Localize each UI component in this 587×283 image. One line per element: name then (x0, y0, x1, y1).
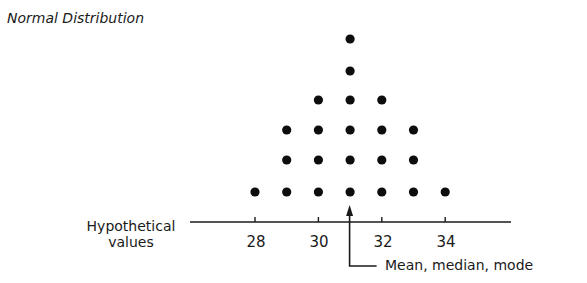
tick-label-28: 28 (246, 233, 265, 251)
tick-label-34: 34 (436, 233, 455, 251)
data-point (346, 125, 355, 134)
data-point (346, 95, 355, 104)
axis-label-line1: Hypothetical (76, 218, 186, 234)
data-point (346, 34, 355, 43)
data-point (346, 66, 355, 75)
data-point (346, 155, 355, 164)
data-point (377, 125, 386, 134)
data-point (282, 187, 291, 196)
data-point (409, 155, 418, 164)
data-point (441, 187, 450, 196)
data-point (409, 187, 418, 196)
arrow-up-icon (346, 205, 353, 216)
tick-label-30: 30 (309, 233, 328, 251)
data-point (409, 125, 418, 134)
tick-label-32: 32 (373, 233, 392, 251)
data-point (314, 95, 323, 104)
data-point (314, 155, 323, 164)
data-point (346, 187, 355, 196)
data-point (377, 155, 386, 164)
data-point (282, 125, 291, 134)
data-point (314, 187, 323, 196)
data-point (314, 125, 323, 134)
axis-label-line2: values (76, 234, 186, 250)
data-point (282, 155, 291, 164)
axis-label: Hypothetical values (76, 218, 186, 250)
data-point (377, 95, 386, 104)
data-point (377, 187, 386, 196)
data-point (250, 187, 259, 196)
mean-median-mode-label: Mean, median, mode (385, 257, 533, 273)
